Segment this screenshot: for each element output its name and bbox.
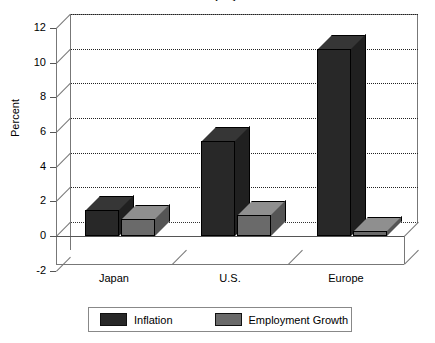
y-tick-mark — [50, 271, 56, 272]
y-tick-mark — [50, 236, 56, 237]
y-tick-mark — [50, 132, 56, 133]
y-tick-mark — [50, 201, 56, 202]
legend-item-employment-growth: Employment Growth — [215, 308, 349, 331]
y-tick-label: 10 — [22, 57, 46, 67]
y-tick-label: 4 — [22, 161, 46, 171]
y-tick-label: 0 — [22, 230, 46, 240]
y-tick-mark — [50, 97, 56, 98]
y-tick-mark — [50, 63, 56, 64]
y-tick-label: 12 — [22, 22, 46, 32]
x-axis-label: Japan — [74, 272, 154, 284]
axis-depth-connector — [56, 257, 71, 272]
bar-europe-employment-growth — [353, 231, 387, 236]
axis-depth-connector — [56, 187, 71, 202]
zero-line — [56, 236, 404, 237]
x-axis-label: U.S. — [190, 272, 270, 284]
chart-legend: Inflation Employment Growth — [88, 307, 352, 332]
legend-swatch-employment-growth — [215, 313, 242, 326]
gridline — [70, 222, 418, 223]
y-axis-label: Percent — [9, 86, 21, 150]
axis-depth-connector — [56, 14, 71, 29]
y-axis-line — [56, 28, 57, 264]
zero-plane-right-edge — [404, 222, 419, 237]
y-tick-label: -2 — [22, 265, 46, 275]
y-tick-mark — [50, 28, 56, 29]
floor-front-edge — [56, 264, 404, 265]
plot-right-edge — [404, 236, 405, 264]
y-tick-label: 8 — [22, 91, 46, 101]
x-axis-label: Europe — [306, 272, 386, 284]
y-tick-label: 2 — [22, 195, 46, 205]
x-category-divider — [172, 250, 187, 265]
axis-depth-connector — [56, 222, 71, 237]
y-tick-mark — [50, 167, 56, 168]
chart-page: Inflation and Employment Growth 12108642… — [0, 0, 435, 343]
axis-depth-connector — [56, 153, 71, 168]
axis-depth-connector — [56, 83, 71, 98]
legend-item-inflation: Inflation — [100, 308, 173, 331]
y-tick-label: 6 — [22, 126, 46, 136]
bar-front-face — [353, 231, 387, 236]
axis-depth-connector — [56, 49, 71, 64]
legend-label-employment-growth: Employment Growth — [249, 314, 349, 326]
legend-label-inflation: Inflation — [134, 314, 173, 326]
floor-right-edge — [404, 250, 419, 265]
plot-area: 121086420-2 Percent JapanU.S.Europe — [0, 0, 435, 343]
x-category-divider — [288, 250, 303, 265]
plot-back-wall — [70, 14, 418, 222]
axis-depth-connector — [56, 118, 71, 133]
y-axis-ticks: 121086420-2 — [20, 0, 46, 343]
legend-swatch-inflation — [100, 313, 127, 326]
